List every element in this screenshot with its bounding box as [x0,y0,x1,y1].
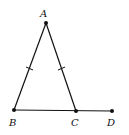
segment-ac [46,23,76,111]
segment-ab [14,23,46,110]
point-a [44,21,48,25]
geometry-diagram: A B C D [0,0,129,135]
point-d [110,109,114,113]
label-d: D [106,117,115,128]
label-c: C [71,117,79,128]
label-b: B [8,117,16,128]
label-a: A [39,8,47,19]
point-c [74,109,78,113]
segment-bd [14,110,112,111]
point-b [12,108,16,112]
